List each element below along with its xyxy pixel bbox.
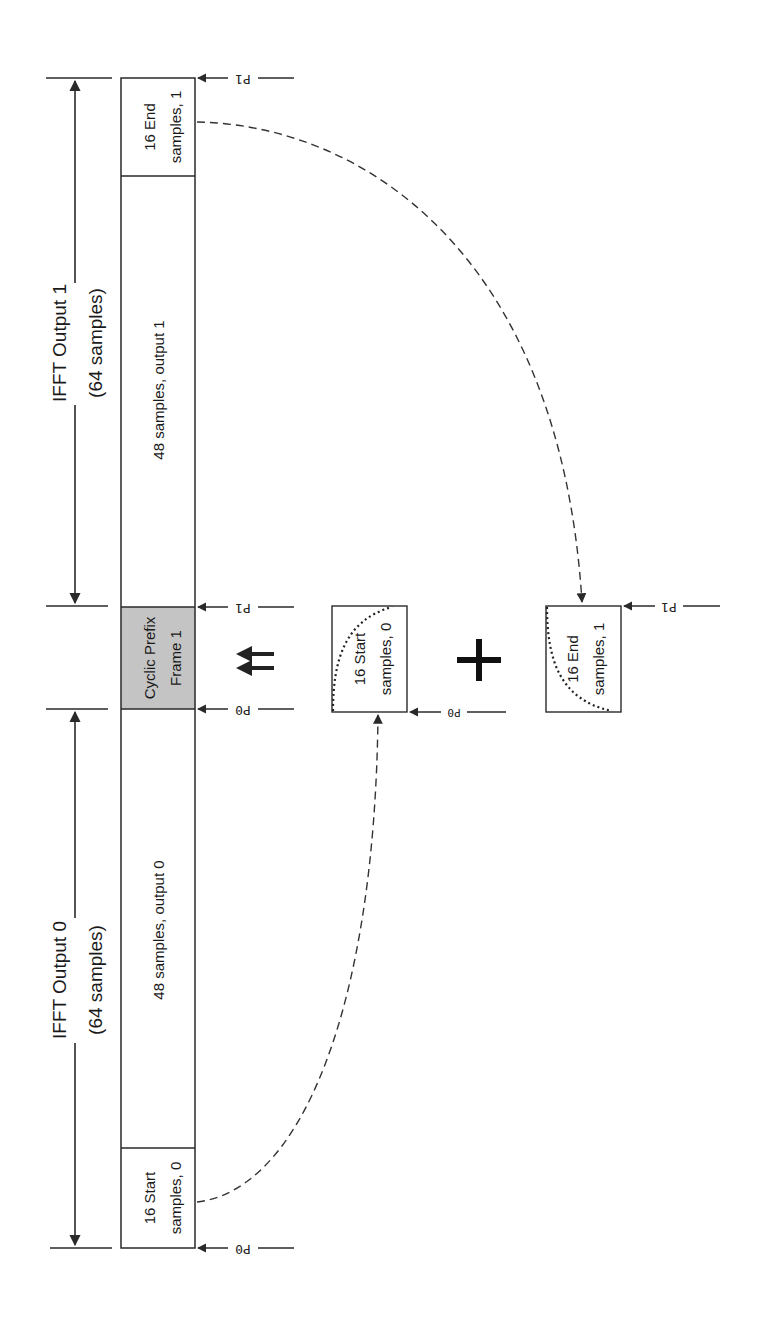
window-box-start0: 16 Start samples, 0: [332, 606, 407, 712]
window-end1-line1: 16 End: [564, 635, 581, 683]
window-start0-line2: samples, 0: [377, 623, 394, 696]
ifft-output-1-label: IFFT Output 1: [49, 284, 70, 402]
marker-p0-cp: P0: [198, 701, 294, 718]
dimension-ifft-output-0: IFFT Output 0 (64 samples): [46, 709, 112, 1248]
p1-label: P1: [661, 600, 677, 615]
p0-label: P0: [235, 703, 251, 718]
copy-arc-end1: [197, 122, 582, 602]
segment-start0-line1: 16 Start: [141, 1171, 158, 1224]
window-start0-line1: 16 Start: [351, 632, 368, 685]
ifft-output-0-label: IFFT Output 0: [49, 921, 70, 1039]
window-end1-line2: samples, 1: [590, 623, 607, 696]
marker-p1-window: P1: [624, 598, 720, 615]
segment-end1-line2: samples, 1: [167, 91, 184, 164]
dimension-ifft-output-1: IFFT Output 1 (64 samples): [46, 78, 112, 606]
copy-arc-start0: [197, 715, 378, 1202]
cyclic-prefix-diagram: IFFT Output 1 (64 samples) IFFT Output 0…: [0, 0, 759, 1325]
sample-strip: 16 End samples, 1 48 samples, output 1 C…: [121, 78, 195, 1248]
segment-start0-line2: samples, 0: [167, 1162, 184, 1235]
window-box-end1: 16 End samples, 1: [546, 606, 621, 712]
double-left-arrow-icon: [236, 646, 274, 676]
segment-mid0: 48 samples, output 0: [150, 860, 167, 999]
ifft-output-1-size: (64 samples): [85, 288, 106, 398]
segment-cp1-line1: Cyclic Prefix: [141, 616, 158, 699]
p1-label: P1: [235, 72, 251, 87]
ifft-output-0-size: (64 samples): [85, 925, 106, 1035]
segment-mid1: 48 samples, output 1: [150, 320, 167, 459]
p1-label: P1: [235, 601, 251, 616]
marker-p0-bottom: P0: [198, 1240, 294, 1257]
plus-icon: [457, 639, 501, 681]
segment-cp1-line2: Frame 1: [167, 630, 184, 686]
marker-p1-top: P1: [198, 70, 294, 87]
segment-end1-line1: 16 End: [141, 103, 158, 151]
marker-p1-cp: P1: [198, 599, 294, 616]
marker-p0-window: P0: [410, 705, 506, 719]
p0-label: P0: [235, 1242, 251, 1257]
p0-label: P0: [447, 706, 460, 719]
